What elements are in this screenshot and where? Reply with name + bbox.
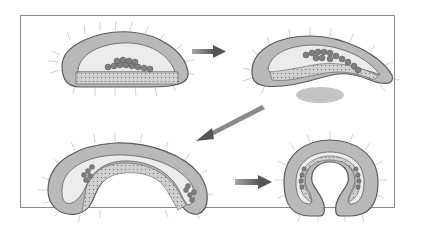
diagram-canvas xyxy=(0,0,432,249)
shadow-blob xyxy=(296,87,344,103)
stage-1-embryo xyxy=(48,21,194,96)
arrow-down-left-icon xyxy=(196,105,265,141)
stage-3-embryo xyxy=(38,132,213,223)
arrow-right-icon xyxy=(192,45,226,58)
arrow-right-icon xyxy=(235,175,272,189)
stage-4-embryo xyxy=(275,131,387,222)
stage-2-embryo xyxy=(243,27,399,103)
